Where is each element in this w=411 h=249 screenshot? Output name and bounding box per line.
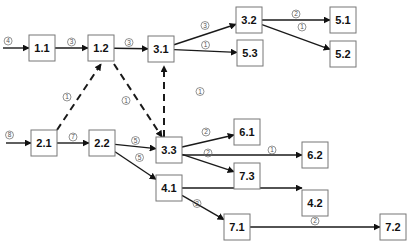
weight-text: 8 <box>8 131 12 138</box>
edge-weight-label: 2 <box>311 217 319 225</box>
edge-weight-label: 5 <box>132 137 140 145</box>
node-5-3: 5.3 <box>237 40 263 66</box>
edge-weight-label: 2 <box>292 10 300 18</box>
node-label: 1.1 <box>34 42 49 54</box>
node-7-3: 7.3 <box>234 163 260 189</box>
node-label: 3.2 <box>241 14 256 26</box>
node-6-2: 6.2 <box>302 142 328 168</box>
weight-text: 1 <box>65 93 69 100</box>
node-7-2: 7.2 <box>380 214 406 240</box>
node-label: 5.2 <box>335 48 350 60</box>
node-1-1: 1.1 <box>29 35 55 61</box>
weight-text: 5 <box>134 137 138 144</box>
node-3-2: 3.2 <box>236 7 262 33</box>
weight-text: 3 <box>70 38 74 45</box>
node-6-1: 6.1 <box>234 119 260 145</box>
edge-1.2-to-3.3 <box>114 64 162 137</box>
node-label: 5.3 <box>242 47 257 59</box>
node-3-1: 3.1 <box>148 36 174 62</box>
edge-weight-label: 1 <box>298 23 306 31</box>
weight-text: 2 <box>206 149 210 156</box>
weight-text: 1 <box>300 23 304 30</box>
weight-text: 7 <box>71 133 75 140</box>
node-label: 4.2 <box>307 197 322 209</box>
node-label: 2.2 <box>94 137 109 149</box>
node-label: 1.2 <box>93 42 108 54</box>
edge-weight-label: 2 <box>204 149 212 157</box>
weight-text: 1 <box>198 88 202 95</box>
edge-3.2-to-5.2 <box>262 25 330 50</box>
edge-weight-label: 3 <box>68 38 76 46</box>
node-label: 6.2 <box>307 149 322 161</box>
weight-text: 1 <box>204 41 208 48</box>
edge-weight-label: 1 <box>122 97 130 105</box>
node-label: 6.1 <box>239 126 254 138</box>
node-2-1: 2.1 <box>31 130 57 156</box>
node-label: 7.1 <box>229 221 244 233</box>
edge-2.2-to-3.3 <box>115 144 156 148</box>
edge-weight-label: 3 <box>201 22 209 30</box>
node-5-2: 5.2 <box>330 41 356 67</box>
edge-weight-label: 8 <box>6 131 14 139</box>
weight-text: 2 <box>195 200 199 207</box>
edge-weight-label: 5 <box>136 154 144 162</box>
weight-text: 1 <box>124 97 128 104</box>
node-4-2: 4.2 <box>302 190 328 216</box>
node-4-1: 4.1 <box>156 175 182 201</box>
edge-weight-label: 1 <box>63 93 71 101</box>
edge-weight-label: 1 <box>268 146 276 154</box>
edge-weight-label: 7 <box>69 133 77 141</box>
edge-weight-label: 1 <box>196 88 204 96</box>
weight-text: 2 <box>204 128 208 135</box>
node-label: 5.1 <box>335 14 350 26</box>
node-label: 4.1 <box>161 182 176 194</box>
weight-text: 5 <box>138 154 142 161</box>
node-5-1: 5.1 <box>330 7 356 33</box>
node-7-1: 7.1 <box>224 214 250 240</box>
node-label: 2.1 <box>36 137 51 149</box>
node-label: 3.3 <box>161 144 176 156</box>
node-2-2: 2.2 <box>89 130 115 156</box>
edge-4.1-to-7.1 <box>182 195 224 219</box>
weight-text: 3 <box>127 39 131 46</box>
edge-weight-label: 1 <box>202 41 210 49</box>
weight-text: 1 <box>270 146 274 153</box>
weight-text: 3 <box>203 22 207 29</box>
weight-text: 2 <box>313 217 317 224</box>
nodes-layer: 1.11.22.12.23.13.23.34.14.25.15.25.36.16… <box>29 7 406 240</box>
edge-3.3-to-6.1 <box>182 135 234 147</box>
edge-weight-label: 2 <box>193 200 201 208</box>
weight-text: 4 <box>6 37 10 44</box>
edge-2.1-to-1.2 <box>57 64 101 130</box>
edge-weight-label: 2 <box>202 128 210 136</box>
node-label: 3.1 <box>153 43 168 55</box>
node-3-3: 3.3 <box>156 137 182 163</box>
edge-weight-label: 3 <box>125 39 133 47</box>
edge-3.1-to-5.3 <box>174 50 237 53</box>
node-label: 7.3 <box>239 170 254 182</box>
node-1-2: 1.2 <box>88 35 114 61</box>
edge-1.2-to-3.1 <box>114 48 148 49</box>
node-label: 7.2 <box>385 221 400 233</box>
weight-text: 2 <box>294 10 298 17</box>
edge-weight-label: 4 <box>4 37 12 45</box>
network-diagram: 48331117553121212322 1.11.22.12.23.13.23… <box>0 0 411 249</box>
